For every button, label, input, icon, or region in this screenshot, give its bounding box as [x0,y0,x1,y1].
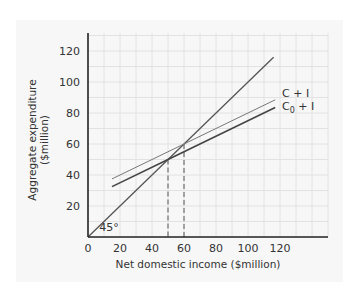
x-tick-label: 100 [238,242,259,255]
x-tick-label: 20 [113,242,127,255]
c0-plus-i-label: C0 + I [282,100,314,115]
y-tick-label: 80 [66,107,80,120]
x-axis-label: Net domestic income ($million) [116,258,281,270]
c-plus-i-label: C + I [282,87,309,100]
y-axis-label-line1: Aggregate expenditure [26,79,38,200]
y-tick-label: 120 [59,45,80,58]
x-tick-label: 40 [145,242,159,255]
x-tick-label: 80 [209,242,223,255]
aggregate-expenditure-chart: 02040608010012020406080100120 Net domest… [0,0,355,296]
angle-45-label: 45° [99,221,119,234]
y-axis-label-line2: ($million) [38,115,50,165]
y-tick-label: 20 [66,200,80,213]
x-tick-label: 120 [270,242,291,255]
x-tick-label: 0 [85,242,92,255]
y-tick-label: 100 [59,76,80,89]
y-tick-label: 40 [66,169,80,182]
y-tick-label: 60 [66,138,80,151]
x-tick-label: 60 [177,242,191,255]
